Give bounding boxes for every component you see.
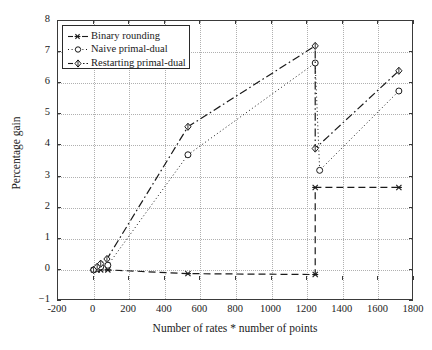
asterisk-dashed-icon	[67, 29, 91, 42]
chart-figure: -200020040060080010001200140016001800−10…	[0, 0, 432, 350]
x-tick-top	[164, 20, 165, 24]
legend-item-binary-rounding: Binary rounding	[67, 29, 185, 42]
y-tick	[57, 51, 61, 52]
series-restarting-primal-dual	[91, 42, 402, 273]
y-tick-label: 3	[20, 169, 50, 180]
y-tick	[57, 300, 61, 301]
series-naive-primal-dual	[91, 60, 402, 273]
y-tick	[57, 176, 61, 177]
series-line	[94, 46, 399, 270]
y-tick	[57, 113, 61, 114]
legend-label: Naive primal-dual	[91, 42, 168, 55]
legend-label: Binary rounding	[91, 29, 160, 42]
y-tick-right	[409, 300, 413, 301]
data-point-diamond	[312, 42, 318, 49]
x-tick	[164, 276, 165, 280]
x-tick-top	[413, 20, 414, 24]
x-tick	[271, 276, 272, 280]
y-tick	[57, 207, 61, 208]
x-tick	[57, 276, 58, 280]
data-point-circle	[312, 60, 318, 66]
y-tick-right	[409, 144, 413, 145]
legend-item-naive-primal-dual: Naive primal-dual	[67, 42, 185, 55]
x-tick-top	[235, 20, 236, 24]
y-tick-label: 6	[20, 75, 50, 86]
y-tick-label: 4	[20, 137, 50, 148]
x-tick-label: 1800	[383, 303, 432, 314]
y-tick-label: 0	[20, 262, 50, 273]
y-tick-right	[409, 113, 413, 114]
y-tick-label: 2	[20, 200, 50, 211]
x-tick	[93, 276, 94, 280]
x-tick-top	[271, 20, 272, 24]
y-tick	[57, 238, 61, 239]
x-tick	[413, 276, 414, 280]
x-tick-top	[342, 20, 343, 24]
series-binary-rounding	[91, 185, 402, 277]
x-tick-top	[306, 20, 307, 24]
circle-dotted-icon	[67, 42, 91, 55]
x-tick	[128, 276, 129, 280]
x-axis-title: Number of rates * number of points	[57, 322, 413, 334]
x-tick	[342, 276, 343, 280]
y-tick-label: 1	[20, 231, 50, 242]
chart-legend: Binary rounding Naive primal-dual	[62, 25, 190, 69]
data-point-diamond	[185, 123, 191, 130]
x-tick-top	[377, 20, 378, 24]
x-tick-top	[199, 20, 200, 24]
data-point-asterisk	[312, 185, 318, 190]
y-tick-label: 5	[20, 106, 50, 117]
y-tick-right	[409, 82, 413, 83]
y-tick-right	[409, 238, 413, 239]
y-tick	[57, 20, 61, 21]
y-tick	[57, 144, 61, 145]
x-tick	[377, 276, 378, 280]
y-tick-right	[409, 51, 413, 52]
y-axis-title: Percentage gain	[10, 93, 22, 213]
y-tick-right	[409, 20, 413, 21]
data-point-asterisk	[396, 185, 402, 190]
legend-item-restarting-primal-dual: Restarting primal-dual	[67, 56, 185, 69]
series-line	[94, 187, 399, 274]
x-tick-top	[93, 20, 94, 24]
data-point-circle	[317, 167, 323, 173]
data-point-circle	[105, 262, 111, 268]
y-tick	[57, 82, 61, 83]
y-tick-label: 7	[20, 44, 50, 55]
y-tick-right	[409, 269, 413, 270]
y-tick-label: 8	[20, 13, 50, 24]
data-point-asterisk	[185, 271, 191, 276]
y-tick-right	[409, 176, 413, 177]
x-tick	[235, 276, 236, 280]
y-tick-right	[409, 207, 413, 208]
y-tick-label: −1	[20, 293, 50, 304]
x-tick	[306, 276, 307, 280]
x-tick-top	[128, 20, 129, 24]
legend-label: Restarting primal-dual	[91, 56, 186, 69]
series-line	[94, 63, 399, 270]
diamond-dashdot-icon	[67, 56, 91, 69]
y-tick	[57, 269, 61, 270]
data-point-circle	[396, 88, 402, 94]
data-point-circle	[185, 152, 191, 158]
x-tick	[199, 276, 200, 280]
